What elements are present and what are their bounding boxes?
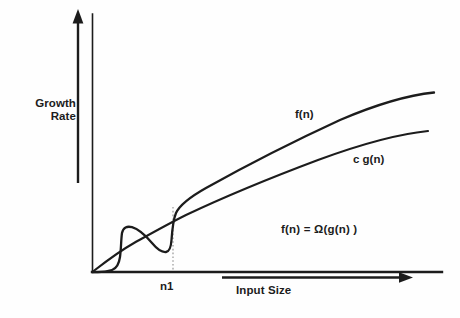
curve-label-c-g-of-n: c g(n) (353, 153, 384, 166)
growth-rate-arrow (73, 9, 84, 183)
y-axis-label-line2: Rate (51, 110, 76, 122)
input-size-arrow (222, 272, 413, 282)
x-axis-label: Input Size (236, 284, 291, 297)
threshold-tick-label-n1: n1 (160, 280, 173, 293)
y-axis-label: GrowthRate (8, 97, 76, 123)
omega-notation-diagram: GrowthRate Input Size n1 f(n) c g(n) f(n… (0, 0, 460, 318)
diagram-canvas (0, 0, 460, 318)
relation-annotation: f(n) = Ω(g(n) ) (281, 223, 357, 236)
curve-label-f-of-n: f(n) (295, 108, 314, 121)
y-axis-label-line1: Growth (35, 97, 76, 109)
